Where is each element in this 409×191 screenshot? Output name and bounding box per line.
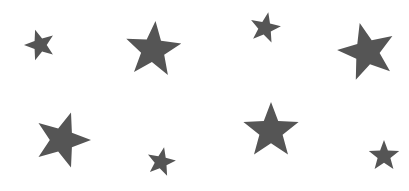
star-icon [148, 147, 176, 175]
star-icon [126, 21, 181, 75]
star-icon [337, 23, 392, 80]
star-icon [39, 112, 92, 167]
star-icon [24, 30, 53, 60]
star-icon [243, 102, 298, 155]
star-icon [251, 12, 281, 42]
star-icon [369, 140, 399, 169]
star-canvas [0, 0, 409, 191]
